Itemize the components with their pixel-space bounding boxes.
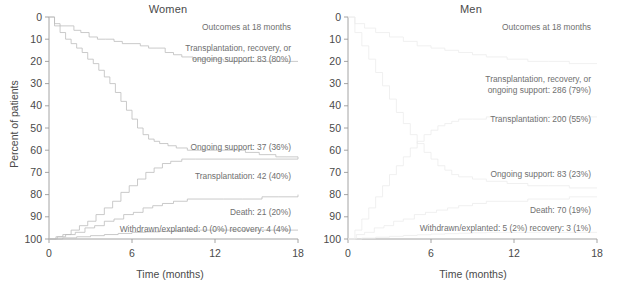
annotation-label: Transplantation, recovery, or <box>185 43 291 53</box>
y-tick-label: 60 <box>30 144 42 156</box>
y-tick-label: 70 <box>329 166 341 178</box>
panel-men: Men Time (months) 1009080706050403020100… <box>307 0 617 289</box>
annotation-label: Ongoing support: 83 (23%) <box>490 169 591 179</box>
y-tick-label: 50 <box>30 122 42 134</box>
y-tick-label: 10 <box>329 33 341 45</box>
y-tick-label: 70 <box>30 166 42 178</box>
x-tick-label: 0 <box>345 247 351 259</box>
x-tick-label: 12 <box>209 247 221 259</box>
y-tick-label: 10 <box>30 33 42 45</box>
curve-ongoing-support <box>348 17 597 188</box>
annotation-label: Withdrawn/explanted: 0 (0%) recovery: 4 … <box>120 224 292 234</box>
curve-withdrawn-explanted-and-recovery <box>348 232 597 239</box>
y-tick-label: 90 <box>329 210 341 222</box>
annotation-label: Outcomes at 18 months <box>202 22 291 32</box>
y-tick-label: 60 <box>329 144 341 156</box>
y-tick-label: 80 <box>329 188 341 200</box>
y-tick-label: 30 <box>329 77 341 89</box>
annotation-label: ongoing support: 83 (80%) <box>192 54 291 64</box>
y-tick-label: 80 <box>30 188 42 200</box>
annotation-label: Withdrawn/explanted: 5 (2%) recovery: 3 … <box>420 223 592 233</box>
annotation-label: Death: 21 (20%) <box>230 207 291 217</box>
annotation-label: Death: 70 (19%) <box>530 205 591 215</box>
curve-ongoing-support <box>49 17 298 159</box>
y-tick-label: 100 <box>24 233 42 245</box>
annotation-label: Outcomes at 18 months <box>502 22 591 32</box>
y-tick-label: 0 <box>36 11 42 23</box>
panel-men-plot: 1009080706050403020100061218Outcomes at … <box>307 0 617 289</box>
annotation-label: Transplantation: 42 (40%) <box>195 171 291 181</box>
panel-women-plot: 1009080706050403020100061218Outcomes at … <box>0 0 310 289</box>
annotation-label: Transplantation: 200 (55%) <box>490 114 591 124</box>
y-tick-label: 40 <box>329 99 341 111</box>
x-tick-label: 18 <box>591 247 603 259</box>
figure-outcomes-at-18-months: Women Percent of patients Time (months) … <box>0 0 617 289</box>
y-tick-label: 50 <box>329 122 341 134</box>
panel-women: Women Percent of patients Time (months) … <box>0 0 310 289</box>
y-tick-label: 0 <box>335 11 341 23</box>
annotation-label: Transplantation, recovery, or <box>485 74 591 84</box>
y-tick-label: 40 <box>30 99 42 111</box>
y-tick-label: 20 <box>329 55 341 67</box>
annotation-label: ongoing support: 286 (79%) <box>488 85 592 95</box>
x-tick-label: 6 <box>129 247 135 259</box>
y-tick-label: 100 <box>323 233 341 245</box>
y-tick-label: 30 <box>30 77 42 89</box>
y-tick-label: 20 <box>30 55 42 67</box>
y-tick-label: 90 <box>30 210 42 222</box>
x-tick-label: 12 <box>508 247 520 259</box>
x-tick-label: 0 <box>46 247 52 259</box>
x-tick-label: 6 <box>428 247 434 259</box>
annotation-label: Ongoing support: 37 (36%) <box>190 142 291 152</box>
x-tick-label: 18 <box>292 247 304 259</box>
